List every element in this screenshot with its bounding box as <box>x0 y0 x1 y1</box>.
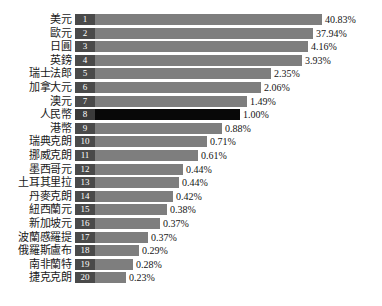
value-label: 0.61% <box>201 149 227 162</box>
bar-wrapper: 1 <box>75 14 322 25</box>
category-label: 英鎊 <box>0 54 72 67</box>
rank-badge: 15 <box>75 204 95 215</box>
currency-share-bar-chart: 美元140.83%歐元237.94%日圓34.16%英鎊43.93%瑞士法郎52… <box>0 0 382 306</box>
bar-wrapper: 15 <box>75 204 167 215</box>
category-label: 新加坡元 <box>0 217 72 230</box>
bar: 17 <box>75 232 148 243</box>
chart-row: 英鎊43.93% <box>0 54 382 67</box>
bar-wrapper: 13 <box>75 177 179 188</box>
chart-row: 新加坡元160.37% <box>0 217 382 230</box>
chart-row: 俄羅斯盧布180.29% <box>0 244 382 257</box>
category-label: 加拿大元 <box>0 81 72 94</box>
value-label: 3.93% <box>305 54 331 67</box>
rank-badge: 5 <box>75 68 95 79</box>
value-label: 0.71% <box>210 135 236 148</box>
category-label: 美元 <box>0 13 72 26</box>
category-label: 紐西蘭元 <box>0 203 72 216</box>
bar-wrapper: 4 <box>75 55 302 66</box>
bar-highlighted: 8 <box>75 109 240 120</box>
bar: 18 <box>75 245 139 256</box>
rank-badge: 2 <box>75 28 95 39</box>
bar-wrapper: 16 <box>75 218 160 229</box>
category-label: 瑞典克朗 <box>0 135 72 148</box>
bar-wrapper: 6 <box>75 82 261 93</box>
bar-wrapper: 19 <box>75 259 133 270</box>
category-label: 挪威克朗 <box>0 149 72 162</box>
rank-badge: 19 <box>75 259 95 270</box>
rank-badge: 6 <box>75 82 95 93</box>
bar: 20 <box>75 272 126 283</box>
value-label: 2.35% <box>274 67 300 80</box>
category-label: 歐元 <box>0 27 72 40</box>
rank-badge: 11 <box>75 150 95 161</box>
category-label: 人民幣 <box>0 108 72 121</box>
category-label: 捷克克朗 <box>0 271 72 284</box>
rank-badge: 12 <box>75 164 95 175</box>
bar-wrapper: 3 <box>75 41 308 52</box>
bar: 3 <box>75 41 308 52</box>
bar: 12 <box>75 164 183 175</box>
bar-wrapper: 14 <box>75 191 173 202</box>
bar: 13 <box>75 177 179 188</box>
bar-wrapper: 10 <box>75 136 207 147</box>
chart-row: 挪威克朗110.61% <box>0 149 382 162</box>
category-label: 俄羅斯盧布 <box>0 244 72 257</box>
value-label: 1.00% <box>243 108 269 121</box>
rank-badge: 20 <box>75 272 95 283</box>
rank-badge: 17 <box>75 232 95 243</box>
bar-wrapper: 2 <box>75 28 313 39</box>
bar: 6 <box>75 82 261 93</box>
value-label: 4.16% <box>311 40 337 53</box>
bar: 2 <box>75 28 313 39</box>
bar: 15 <box>75 204 167 215</box>
bar-wrapper: 9 <box>75 123 222 134</box>
category-label: 瑞士法郎 <box>0 67 72 80</box>
rank-badge: 8 <box>75 109 95 120</box>
value-label: 0.37% <box>163 217 189 230</box>
chart-row: 美元140.83% <box>0 13 382 26</box>
bar-wrapper: 18 <box>75 245 139 256</box>
chart-row: 瑞典克朗100.71% <box>0 135 382 148</box>
bar-wrapper: 12 <box>75 164 183 175</box>
value-label: 1.49% <box>250 95 276 108</box>
value-label: 2.06% <box>264 81 290 94</box>
value-label: 0.37% <box>151 231 177 244</box>
chart-row: 澳元71.49% <box>0 95 382 108</box>
bar: 16 <box>75 218 160 229</box>
value-label: 0.44% <box>182 176 208 189</box>
chart-row: 土耳其里拉130.44% <box>0 176 382 189</box>
category-label: 土耳其里拉 <box>0 176 72 189</box>
bar-wrapper: 7 <box>75 96 247 107</box>
bar-wrapper: 17 <box>75 232 148 243</box>
chart-row: 歐元237.94% <box>0 27 382 40</box>
bar: 9 <box>75 123 222 134</box>
bar-wrapper: 11 <box>75 150 198 161</box>
chart-row: 丹麥克朗140.42% <box>0 190 382 203</box>
chart-row: 南非蘭特190.28% <box>0 258 382 271</box>
chart-row: 紐西蘭元150.38% <box>0 203 382 216</box>
value-label: 0.29% <box>142 244 168 257</box>
chart-row: 捷克克朗200.23% <box>0 271 382 284</box>
category-label: 墨西哥元 <box>0 163 72 176</box>
rank-badge: 14 <box>75 191 95 202</box>
category-label: 波蘭慼羅提 <box>0 231 72 244</box>
chart-row: 波蘭慼羅提170.37% <box>0 231 382 244</box>
rank-badge: 4 <box>75 55 95 66</box>
bar: 5 <box>75 68 271 79</box>
rank-badge: 1 <box>75 14 95 25</box>
rank-badge: 3 <box>75 41 95 52</box>
value-label: 0.42% <box>176 190 202 203</box>
rank-badge: 9 <box>75 123 95 134</box>
rank-badge: 18 <box>75 245 95 256</box>
bar: 4 <box>75 55 302 66</box>
bar: 14 <box>75 191 173 202</box>
bar: 19 <box>75 259 133 270</box>
value-label: 40.83% <box>325 13 356 26</box>
category-label: 港幣 <box>0 122 72 135</box>
value-label: 0.88% <box>225 122 251 135</box>
value-label: 0.38% <box>170 203 196 216</box>
category-label: 丹麥克朗 <box>0 190 72 203</box>
category-label: 澳元 <box>0 95 72 108</box>
rank-badge: 10 <box>75 136 95 147</box>
bar: 7 <box>75 96 247 107</box>
